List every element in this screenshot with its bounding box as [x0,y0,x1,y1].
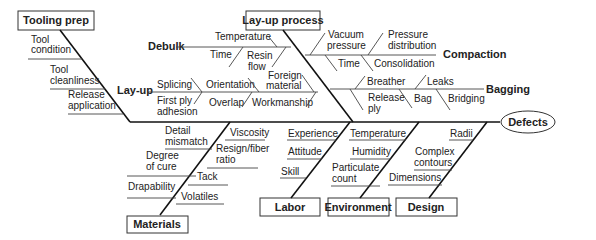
cause-bag: Bag [414,93,432,104]
cause-resign-fiber-ratio-2: ratio [216,154,236,165]
cause-resign-fiber-ratio-1: Resign/fiber [216,143,270,154]
cause-leaks: Leaks [427,76,454,87]
cause-time: Time [210,49,232,60]
category-label: Environment [324,201,392,213]
cause-bridging: Bridging [448,93,485,104]
cause-tool-condition-2: condition [31,44,71,55]
cause-orientation: Orientation [206,79,255,90]
cause-first-ply-adhesion-1: First ply [157,95,192,106]
cause-resin-flow-1: Resin [247,50,273,61]
cause-radii: Radii [450,128,473,139]
cause-pressure-distribution-2: distribution [388,40,436,51]
cause-complex-contours-2: contours [414,157,452,168]
category-label: Design [408,201,445,213]
cause-degree-of-cure-2: of cure [146,161,177,172]
category-materials: Materials Detail mismatch Viscosity Degr… [127,122,270,233]
cause-workmanship: Workmanship [252,97,313,108]
cause-splicing: Splicing [157,79,192,90]
cause-skill: Skill [281,166,299,177]
cause-tack: Tack [197,171,219,182]
fishbone-diagram: Defects Tooling prep Tool condition Tool… [0,0,596,240]
cause-experience: Experience [288,128,338,139]
sub-branch-label: Debulk [148,40,186,52]
cause-resin-flow-2: flow [248,61,267,72]
cause-temperature-env: Temperature [350,128,407,139]
cause-consolidation: Consolidation [374,58,435,69]
sub-branch-label: Lay-up [117,84,153,96]
cause-attitude: Attitude [288,146,322,157]
cause-vacuum-pressure-1: Vacuum [328,29,364,40]
cause-time-compaction: Time [338,58,360,69]
category-tooling-prep: Tooling prep Tool condition Tool cleanli… [18,11,130,122]
effect-defects: Defects [501,111,555,133]
cause-viscosity: Viscosity [230,127,269,138]
cause-overlap: Overlap [209,97,244,108]
cause-first-ply-adhesion-2: adhesion [157,106,198,117]
sub-branch-label: Bagging [486,83,530,95]
category-layup-process: Lay-up process Debulk Temperature Time R… [117,11,530,122]
category-label: Labor [275,201,306,213]
cause-particulate-count-1: Particulate [332,162,380,173]
cause-release-application-1: Release [68,89,105,100]
cause-vacuum-pressure-2: pressure [327,40,366,51]
sub-branch-layup: Lay-up Splicing Orientation Foreign mate… [117,70,318,117]
category-label: Materials [133,218,181,230]
cause-release-application-2: application [68,100,116,111]
cause-temperature: Temperature [215,31,272,42]
cause-volatiles: Volatiles [181,191,218,202]
cause-detail-mismatch-2: mismatch [165,136,208,147]
sub-branch-bagging: Bagging Breather Leaks Release ply Bag B… [330,75,530,114]
cause-drapability: Drapability [128,181,175,192]
cause-foreign-material-2: material [266,80,302,91]
cause-pressure-distribution-1: Pressure [388,29,428,40]
cause-release-ply-1: Release [368,92,405,103]
cause-detail-mismatch-1: Detail [165,125,191,136]
category-label: Lay-up process [242,14,323,26]
cause-breather: Breather [367,76,406,87]
cause-tool-cleanliness-1: Tool [50,64,68,75]
cause-degree-of-cure-1: Degree [146,150,179,161]
cause-complex-contours-1: Complex [415,146,454,157]
effect-label: Defects [508,116,548,128]
cause-particulate-count-2: count [332,173,357,184]
sub-branch-label: Compaction [443,48,507,60]
cause-tool-cleanliness-2: cleanliness [50,75,99,86]
sub-branch-debulk: Debulk Temperature Time Resin flow [148,31,291,72]
sub-branch-compaction: Compaction Vacuum pressure Pressure dist… [305,29,507,71]
cause-release-ply-2: ply [368,103,381,114]
category-label: Tooling prep [23,14,89,26]
cause-humidity: Humidity [352,146,391,157]
cause-dimensions: Dimensions [389,172,441,183]
